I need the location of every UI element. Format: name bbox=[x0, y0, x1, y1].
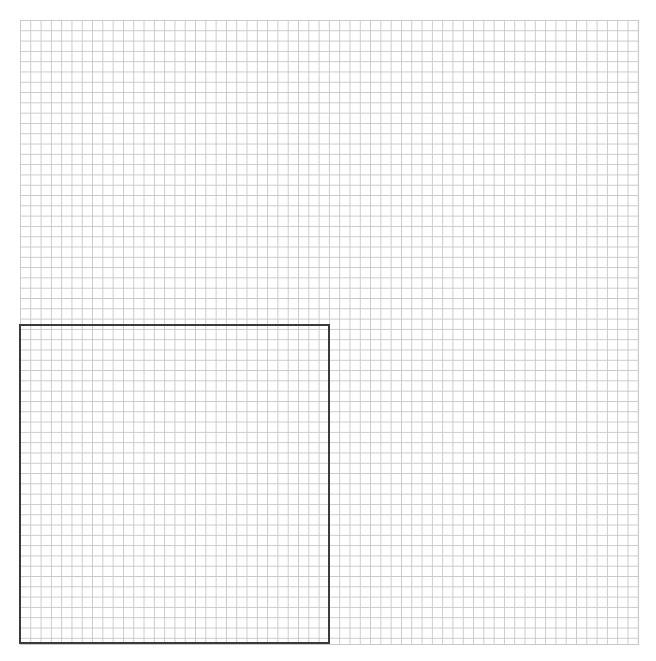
canvas-root bbox=[0, 0, 656, 661]
grid-bottom-edge-line bbox=[20, 644, 639, 645]
grid-right-edge-line bbox=[638, 20, 639, 645]
selection-rectangle[interactable] bbox=[19, 324, 330, 644]
